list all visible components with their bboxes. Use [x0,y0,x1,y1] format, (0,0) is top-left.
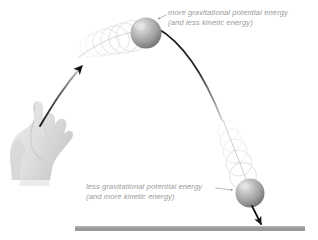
physics-energy-diagram: more gravitational potential energy (and… [0,0,318,240]
label-more-potential-energy-line1: more gravitational potential energy [168,8,288,18]
label-more-potential-energy: more gravitational potential energy (and… [168,8,288,27]
label-less-potential-energy-line2: (and more kinetic energy) [86,192,202,202]
launch-arrow [40,66,82,126]
label-more-potential-energy-line2: (and less kinetic energy) [168,18,288,28]
diagram-canvas [0,0,318,240]
ball-at-apex [131,18,162,49]
label-less-potential-energy: less gravitational potential energy (and… [86,182,202,201]
leader-line-bottom [216,188,233,190]
label-less-potential-energy-line1: less gravitational potential energy [86,182,202,192]
trajectory-arc [157,28,222,120]
leader-line-top [158,15,166,19]
hand-illustration [10,101,73,186]
velocity-arrow-down [252,206,261,224]
ground-bar-highlight [75,226,305,227]
ball-descending [236,179,265,208]
